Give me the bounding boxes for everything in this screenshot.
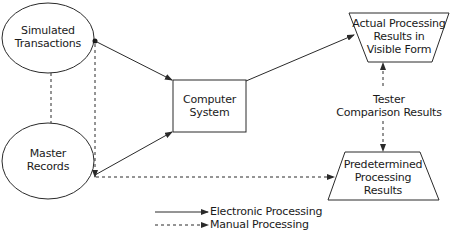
computer-system-label: Computer System xyxy=(173,93,246,119)
tester-comparison-label: Tester Comparison Results xyxy=(328,93,450,119)
legend-manual-label: Manual Processing xyxy=(210,218,309,231)
actual-results-label: Actual Processing Results in Visible For… xyxy=(349,17,449,56)
edge-computer-to-actual xyxy=(246,35,354,81)
legend-electronic-label: Electronic Processing xyxy=(210,205,322,218)
edge-transactions-to-computer xyxy=(95,41,172,80)
master-records-label: Master Records xyxy=(2,147,94,173)
simulated-transactions-label: Simulated Transactions xyxy=(2,24,94,50)
edge-master-to-computer xyxy=(95,132,172,175)
predetermined-results-label: Predetermined Processing Results xyxy=(333,158,433,197)
